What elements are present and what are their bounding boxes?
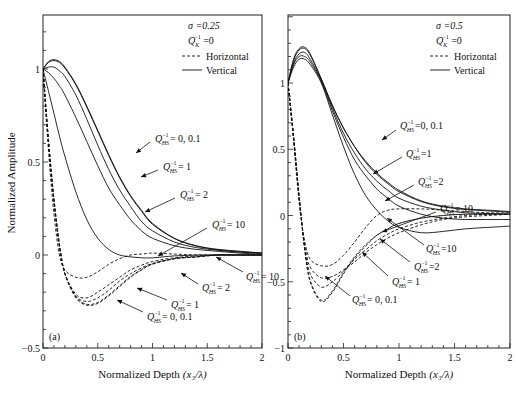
y-tick-label: −1 xyxy=(274,343,285,354)
figure: Normalized Amplitude 00.511.52−0.500.51N… xyxy=(0,0,516,395)
series-line xyxy=(288,83,510,266)
annotation-label: Q−1HS=2 xyxy=(418,175,444,189)
arrowhead-icon xyxy=(181,273,186,278)
series-line xyxy=(288,83,510,278)
annotation-label: Q−1HS= 2 xyxy=(180,188,208,202)
annotation-label: Q−1HS= 1 xyxy=(163,160,191,174)
legend-horizontal-label: Horizontal xyxy=(454,51,497,62)
panel-a: 00.511.52−0.500.51Normalized Depth(x₃/λ)… xyxy=(22,15,279,381)
x-tick-label: 2 xyxy=(508,352,513,363)
x-tick-label: 1 xyxy=(397,352,402,363)
arrowhead-icon xyxy=(382,135,387,140)
x-axis-label: Normalized Depth(x₃/λ) xyxy=(98,368,207,381)
legend-vertical-label: Vertical xyxy=(206,65,237,76)
series-line xyxy=(43,69,262,278)
legend-qk: QK−1 =0 xyxy=(436,34,462,48)
legend-qk: QK−1 =0 xyxy=(188,34,214,48)
x-tick-label: 1 xyxy=(150,352,155,363)
annotation-label: Q−1HS=1 xyxy=(406,147,432,161)
annotation-label: Q−1HS= 10 xyxy=(440,202,473,216)
x-tick-label: 1.5 xyxy=(448,352,461,363)
x-axis-label: Normalized Depth(x₃/λ) xyxy=(345,368,454,381)
annotation-label: Q−1HS=10 xyxy=(426,242,457,256)
series-line xyxy=(288,83,510,287)
annotation-label: Q−1HS= 2 xyxy=(202,281,230,295)
annotation-arrow xyxy=(158,228,207,256)
series-line xyxy=(43,69,262,306)
y-tick-label: 0.5 xyxy=(273,144,286,155)
x-tick-label: 0 xyxy=(286,352,291,363)
annotation-arrow xyxy=(362,252,388,276)
x-tick-label: 0.5 xyxy=(337,352,350,363)
arrowhead-icon xyxy=(137,288,142,292)
annotation-label: Q−1HS= 0, 0.1 xyxy=(147,310,193,324)
y-tick-label: 0.5 xyxy=(28,157,41,168)
panel-b: 00.511.52−1−0.500.51Normalized Depth(x₃/… xyxy=(267,15,513,381)
annotation-label: Q−1HS= 10 xyxy=(212,218,245,232)
annotation-label: Q−1HS= 1 xyxy=(392,275,420,289)
y-tick-label: 0 xyxy=(280,211,285,222)
x-tick-label: 2 xyxy=(260,352,265,363)
x-tick-label: 0.5 xyxy=(92,352,105,363)
annotation-label: Q−1HS= 0, 0.1 xyxy=(352,293,398,307)
y-tick-label: 1 xyxy=(35,64,40,75)
x-tick-label: 1.5 xyxy=(201,352,214,363)
annotation-label: Q−1HS= 1 xyxy=(171,298,199,312)
y-tick-label: 1 xyxy=(280,78,285,89)
annotation-label: Q−1HS=2 xyxy=(414,260,440,274)
panel-tag: (a) xyxy=(49,331,60,343)
annotation-arrow xyxy=(380,239,410,262)
series-group xyxy=(288,47,510,302)
series-line xyxy=(43,69,262,302)
annotation-label: Q−1HS= 0, 0.1 xyxy=(155,132,201,146)
panel-tag: (b) xyxy=(294,331,306,343)
legend-sigma: σ =0.25 xyxy=(188,20,220,31)
legend-sigma: σ =0.5 xyxy=(436,20,463,31)
series-line xyxy=(288,58,510,233)
annotation-label: Q−1HS=0, 0.1 xyxy=(400,119,443,133)
y-tick-label: 0 xyxy=(35,250,40,261)
y-tick-label: −0.5 xyxy=(22,343,40,354)
arrowhead-icon xyxy=(136,148,141,153)
legend-vertical-label: Vertical xyxy=(454,65,485,76)
series-group xyxy=(43,60,262,306)
arrowhead-icon xyxy=(382,228,387,232)
y-axis-label: Normalized Amplitude xyxy=(5,132,17,233)
y-tick-label: −0.5 xyxy=(267,277,285,288)
series-line xyxy=(43,69,262,305)
series-line xyxy=(288,83,510,302)
annotation-arrow xyxy=(373,157,402,174)
x-tick-label: 0 xyxy=(41,352,46,363)
legend-horizontal-label: Horizontal xyxy=(206,51,249,62)
